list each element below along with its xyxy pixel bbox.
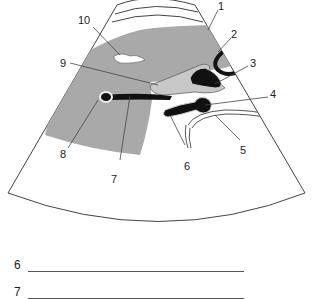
label-4: 4 bbox=[270, 88, 276, 100]
label-9: 9 bbox=[60, 57, 66, 69]
ultrasound-diagram: 1 2 3 4 5 6 7 8 9 10 bbox=[0, 0, 316, 240]
answer-number: 7 bbox=[14, 285, 26, 299]
label-8: 8 bbox=[60, 148, 66, 160]
label-5: 5 bbox=[240, 144, 246, 156]
label-10: 10 bbox=[78, 14, 90, 26]
label-2: 2 bbox=[231, 28, 237, 40]
label-1: 1 bbox=[218, 0, 224, 12]
label-6: 6 bbox=[184, 160, 190, 172]
structure-8 bbox=[100, 92, 112, 102]
answer-row-6: 6 bbox=[14, 256, 244, 272]
answer-blank[interactable] bbox=[28, 259, 244, 272]
answer-number: 6 bbox=[14, 258, 26, 272]
answer-row-7: 7 bbox=[14, 283, 244, 299]
answer-blank[interactable] bbox=[28, 286, 244, 299]
label-7: 7 bbox=[111, 173, 117, 185]
label-3: 3 bbox=[250, 57, 256, 69]
